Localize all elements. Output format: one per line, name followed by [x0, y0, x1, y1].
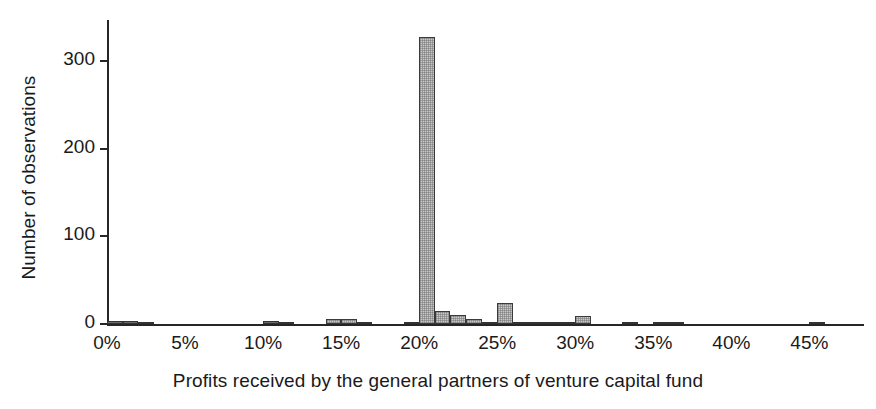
bar [575, 316, 591, 324]
bar [263, 321, 279, 325]
bar [544, 322, 560, 325]
y-tick: 300 [100, 60, 107, 62]
bar [466, 319, 482, 324]
y-tick-label: 0 [84, 312, 95, 332]
bar [341, 319, 357, 324]
y-tick-mark [100, 323, 107, 325]
bar [138, 322, 154, 325]
bar [669, 322, 685, 325]
y-tick: 0 [100, 323, 107, 325]
histogram-figure: Number of observations 0100200300 0%5%10… [0, 0, 876, 409]
bar [357, 322, 373, 325]
y-tick: 100 [100, 235, 107, 237]
bar [404, 322, 420, 325]
y-tick: 200 [100, 148, 107, 150]
x-tick-label: 5% [171, 332, 198, 354]
x-tick-label: 10% [244, 332, 282, 354]
bar [513, 322, 529, 325]
y-tick-mark [100, 60, 107, 62]
y-axis-title: Number of observations [14, 5, 44, 350]
y-tick-mark [100, 235, 107, 237]
y-tick-mark [100, 148, 107, 150]
x-tick-label: 40% [712, 332, 750, 354]
y-axis-line [107, 20, 109, 326]
plot-area: 0100200300 0%5%10%15%20%25%30%35%40%45% [107, 20, 864, 326]
bar [809, 322, 825, 325]
bar [419, 37, 435, 324]
bar [123, 321, 139, 324]
bar [622, 322, 638, 325]
y-tick-label: 200 [63, 137, 95, 157]
x-tick-label: 20% [400, 332, 438, 354]
x-tick-label: 0% [93, 332, 120, 354]
bar [497, 303, 513, 324]
x-tick-label: 15% [322, 332, 360, 354]
x-tick-label: 30% [556, 332, 594, 354]
bar [653, 322, 669, 325]
bar [482, 322, 498, 325]
x-tick-label: 35% [634, 332, 672, 354]
bar [450, 315, 466, 324]
bar [326, 319, 342, 324]
bar [279, 322, 295, 325]
bar [435, 311, 451, 324]
x-tick-label: 25% [478, 332, 516, 354]
bar [107, 321, 123, 324]
x-axis-line [107, 324, 864, 326]
bar [528, 322, 544, 325]
x-tick-label: 45% [790, 332, 828, 354]
x-axis-title: Profits received by the general partners… [0, 368, 876, 394]
y-tick-label: 300 [63, 49, 95, 69]
y-tick-label: 100 [63, 224, 95, 244]
bar [560, 322, 576, 325]
